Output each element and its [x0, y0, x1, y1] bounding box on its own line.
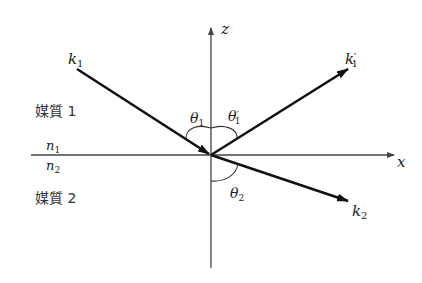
- label-medium-2: 媒質 2: [35, 190, 76, 206]
- label-theta2: θ2: [230, 185, 244, 203]
- label-medium-1: 媒質 1: [35, 103, 76, 119]
- label-k1-prime: k′1: [345, 50, 358, 69]
- theta2-arc: [211, 164, 238, 181]
- label-k2: k2: [352, 202, 367, 221]
- label-theta1: θ1: [190, 110, 204, 128]
- label-k1: k1: [68, 50, 83, 69]
- refraction-diagram: z x k1 k′1 k2 θ1 θ′1 θ2 媒質 1 媒質 2 n1 n2: [0, 0, 422, 283]
- z-axis-label: z: [220, 20, 229, 38]
- label-n2: n2: [46, 158, 60, 175]
- theta1-prime-arc: [211, 126, 237, 139]
- label-n1: n1: [46, 138, 60, 155]
- x-axis-label: x: [397, 153, 406, 171]
- theta1-arc: [186, 126, 211, 138]
- label-theta1-prime: θ′1: [228, 108, 240, 126]
